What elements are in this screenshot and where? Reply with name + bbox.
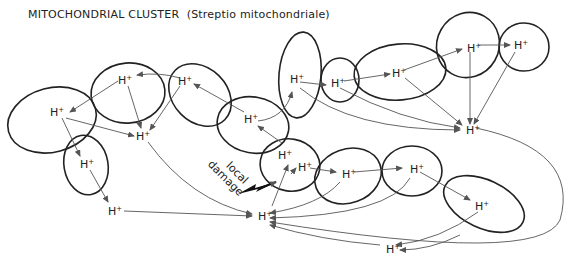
- mitochondrion-2: [89, 60, 168, 126]
- proton-label: H+: [50, 107, 64, 118]
- diagram-graphics: [0, 0, 576, 261]
- proton-flow-arrows: [62, 45, 563, 250]
- proton-label: H+: [467, 43, 481, 54]
- proton-label: H+: [342, 169, 356, 180]
- proton-label: H+: [386, 244, 400, 255]
- proton-label: H+: [258, 211, 272, 222]
- proton-label: H+: [80, 159, 94, 170]
- proton-label: H+: [392, 68, 406, 79]
- proton-label: H+: [410, 164, 424, 175]
- proton-label: H+: [466, 125, 480, 136]
- proton-label: H+: [108, 206, 122, 217]
- proton-label: H+: [514, 40, 528, 51]
- mitochondrial-cluster-diagram: MITOCHONDRIAL CLUSTER (Streptio mitochon…: [0, 0, 576, 261]
- proton-label: H+: [298, 162, 312, 173]
- mitochondrion-1: [0, 77, 103, 162]
- proton-label: H+: [178, 76, 192, 87]
- proton-label: H+: [331, 78, 345, 89]
- proton-label: H+: [118, 75, 132, 86]
- proton-label: H+: [278, 150, 292, 161]
- proton-label: H+: [290, 74, 304, 85]
- proton-label: H+: [136, 131, 150, 142]
- proton-label: H+: [244, 114, 258, 125]
- mitochondrion-3: [156, 51, 244, 139]
- proton-label: H+: [475, 201, 489, 212]
